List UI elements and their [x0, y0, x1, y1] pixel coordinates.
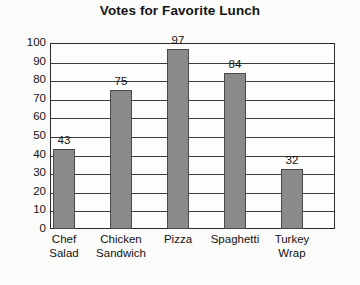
x-category-label-line: Pizza — [148, 233, 208, 247]
x-category-label: TurkeyWrap — [262, 233, 322, 260]
bar-value-label: 32 — [272, 155, 312, 167]
y-tick-label: 80 — [2, 74, 46, 86]
x-axis-category-labels: ChefSaladChickenSandwichPizzaSpaghettiTu… — [50, 233, 335, 279]
x-category-label-line: Salad — [34, 247, 94, 261]
y-tick-label: 10 — [2, 205, 46, 217]
bar-value-label: 97 — [158, 35, 198, 47]
x-category-label: Spaghetti — [205, 233, 265, 247]
chart-title: Votes for Favorite Lunch — [0, 3, 360, 18]
bar-chart: Votes for Favorite Lunch 010203040506070… — [0, 0, 360, 285]
bar — [281, 169, 303, 229]
x-category-label-line: Turkey — [262, 233, 322, 247]
y-tick-label: 40 — [2, 149, 46, 161]
x-category-label-line: Spaghetti — [205, 233, 265, 247]
bars-layer: 4375978432 — [50, 43, 335, 229]
x-category-label: Pizza — [148, 233, 208, 247]
y-tick-label: 50 — [2, 130, 46, 142]
y-tick-label: 100 — [2, 37, 46, 49]
x-category-label-line: Chef — [34, 233, 94, 247]
y-tick-label: 20 — [2, 186, 46, 198]
x-category-label-line: Sandwich — [91, 247, 151, 261]
bar-value-label: 75 — [101, 76, 141, 88]
y-axis-tick-labels: 0102030405060708090100 — [0, 43, 46, 229]
bar — [224, 73, 246, 229]
y-tick-label: 90 — [2, 56, 46, 68]
bar — [110, 90, 132, 230]
x-category-label: ChickenSandwich — [91, 233, 151, 260]
y-tick-label: 70 — [2, 93, 46, 105]
x-category-label-line: Chicken — [91, 233, 151, 247]
x-category-label: ChefSalad — [34, 233, 94, 260]
bar-value-label: 84 — [215, 59, 255, 71]
bar — [53, 149, 75, 229]
bar-value-label: 43 — [44, 135, 84, 147]
x-category-label-line: Wrap — [262, 247, 322, 261]
y-tick-label: 30 — [2, 167, 46, 179]
y-tick-label: 60 — [2, 112, 46, 124]
bar — [167, 49, 189, 229]
